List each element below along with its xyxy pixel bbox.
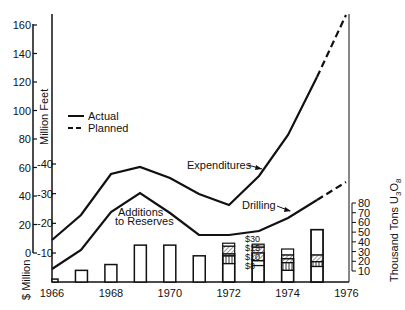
feet-tick: -20: [37, 217, 53, 229]
legend: Actual Planned: [68, 110, 128, 134]
dollar-axis-title: $ Million: [20, 260, 32, 300]
legend-actual: Actual: [88, 110, 119, 122]
feet-axis-title: Million Feet: [38, 89, 50, 145]
feet-tick: -10: [37, 247, 53, 259]
bar: [52, 279, 58, 282]
year-tick: 1966: [40, 287, 64, 299]
dollar-tick: 100: [13, 105, 31, 117]
year-tick: 1970: [158, 287, 182, 299]
tons-axis-title: Thousand Tons U3O8: [388, 178, 403, 282]
chart: 020406080100120140160 $ Million -10-20-3…: [0, 0, 405, 310]
dollar-tick: 20: [19, 219, 31, 231]
expenditures-label: Expenditures: [187, 159, 252, 171]
expenditures-actual-line: [52, 77, 317, 240]
bar: [105, 265, 117, 282]
feet-tick: -30: [37, 188, 53, 200]
drilling-label: Drilling: [242, 199, 276, 211]
year-tick: 1974: [275, 287, 299, 299]
additions-bars: [52, 230, 323, 282]
expenditures-planned-line: [317, 15, 346, 77]
dollar-tick: 0: [25, 247, 31, 259]
dollar-tick: 40: [19, 190, 31, 202]
year-tick: 1976: [334, 287, 358, 299]
svg-text:$8: $8: [245, 261, 255, 271]
dollar-tick: 140: [13, 48, 31, 60]
dollar-tick: 80: [19, 133, 31, 145]
tons-tick: 80: [358, 197, 370, 209]
year-tick: 1968: [99, 287, 123, 299]
bar: [134, 245, 146, 282]
bar: [75, 270, 87, 282]
legend-planned: Planned: [88, 122, 128, 134]
additions-label-2: to Reserves: [115, 215, 174, 227]
dollar-tick: 120: [13, 76, 31, 88]
feet-axis: -10-20-30-40 Million Feet: [37, 14, 56, 282]
x-axis: 196619681970197219741976: [40, 282, 359, 299]
dollar-tick: 60: [19, 162, 31, 174]
feet-tick: -40: [37, 158, 53, 170]
tons-axis: 1020304050607080 Thousand Tons U3O8: [349, 14, 403, 282]
drilling-planned-line: [317, 182, 346, 200]
dollar-axis: 020406080100120140160 $ Million: [13, 19, 37, 300]
bar: [193, 256, 205, 282]
dollar-tick: 160: [13, 19, 31, 31]
year-tick: 1972: [216, 287, 240, 299]
drilling-actual-line: [52, 193, 317, 269]
bar: [164, 245, 176, 282]
